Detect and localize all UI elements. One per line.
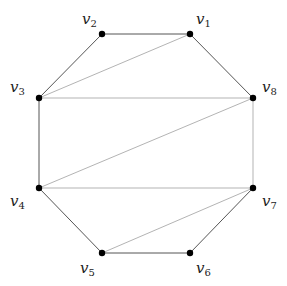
edge-v4-v5 xyxy=(39,188,102,253)
vertex-v1 xyxy=(187,31,193,37)
vertex-label-v4: v4 xyxy=(10,192,25,211)
vertex-v3 xyxy=(36,95,42,101)
edge-v4-v8 xyxy=(39,98,253,188)
vertex-label-v1: v1 xyxy=(196,10,211,29)
vertex-v4 xyxy=(36,185,42,191)
vertex-label-v6: v6 xyxy=(196,259,211,278)
vertex-label-v5: v5 xyxy=(80,259,95,278)
vertex-v8 xyxy=(250,95,256,101)
vertex-layer xyxy=(36,31,256,256)
edge-v3-v1 xyxy=(39,34,190,98)
vertex-label-v2: v2 xyxy=(82,10,97,29)
graph-diagram: v1v2v3v4v5v6v7v8 xyxy=(0,0,287,286)
edge-v2-v3 xyxy=(39,34,102,98)
vertex-label-v7: v7 xyxy=(262,192,277,211)
edge-v6-v7 xyxy=(190,188,253,253)
vertex-label-v8: v8 xyxy=(262,78,277,97)
vertex-v5 xyxy=(99,250,105,256)
vertex-v2 xyxy=(99,31,105,37)
vertex-label-v3: v3 xyxy=(10,78,25,97)
vertex-v7 xyxy=(250,185,256,191)
vertex-v6 xyxy=(187,250,193,256)
edge-layer xyxy=(39,34,253,253)
edge-v5-v7 xyxy=(102,188,253,253)
edge-v8-v1 xyxy=(190,34,253,98)
